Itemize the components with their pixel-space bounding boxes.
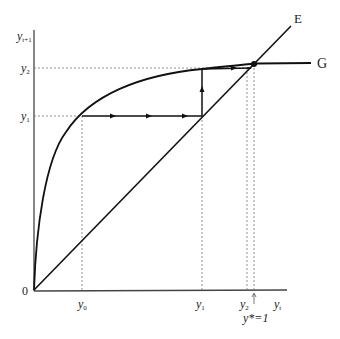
steady-state-label: y*=1 (243, 312, 268, 324)
x-axis (34, 290, 287, 291)
curve-G-label: G (317, 57, 327, 71)
y-tick-y1: y1 (21, 110, 30, 124)
y-tick-y2: y2 (21, 62, 30, 76)
x-axis-label: yt (274, 298, 281, 312)
x-tick-y1: y1 (196, 298, 205, 312)
diagram-canvas (0, 0, 340, 339)
x-tick-y2: y2 (240, 298, 249, 312)
origin-label: 0 (22, 285, 28, 297)
steady-state-point (251, 61, 257, 67)
line-E-label: E (294, 12, 302, 25)
diagram: yt+1 y2 y1 0 y0 y1 y2 yt y*=1 E G (0, 0, 340, 339)
curve-G (34, 63, 311, 290)
x-tick-y0: y0 (78, 298, 87, 312)
y-axis-label: yt+1 (17, 30, 32, 44)
